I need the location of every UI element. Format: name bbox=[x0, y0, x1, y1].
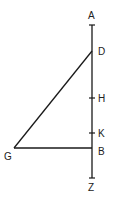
label-D: D bbox=[98, 46, 105, 57]
label-H: H bbox=[98, 93, 105, 104]
label-A: A bbox=[88, 10, 95, 21]
label-B: B bbox=[98, 146, 105, 157]
label-K: K bbox=[98, 128, 105, 139]
geometry-diagram: A D H K B G Z bbox=[0, 0, 113, 198]
label-Z: Z bbox=[88, 182, 94, 193]
line-DG bbox=[14, 51, 92, 148]
label-G: G bbox=[4, 151, 12, 162]
